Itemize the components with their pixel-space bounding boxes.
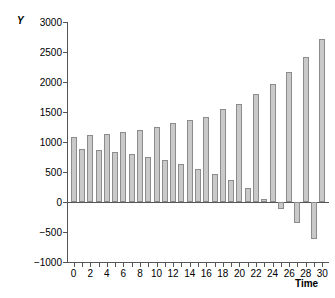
x-axis-tick-label: 22 [250, 268, 261, 279]
bar [228, 180, 234, 202]
y-axis-tick [63, 202, 67, 203]
x-axis-tick-label: 2 [87, 268, 93, 279]
x-axis-tick [264, 263, 265, 267]
x-axis-tick-label: 26 [284, 268, 295, 279]
y-axis-tick [63, 232, 67, 233]
zero-line [67, 202, 329, 203]
y-axis-line [67, 22, 68, 262]
bar [79, 149, 85, 202]
bar [120, 132, 126, 203]
x-axis-tick-label: 18 [217, 268, 228, 279]
x-axis-tick-label: 0 [71, 268, 77, 279]
x-axis-tick [123, 263, 124, 267]
bar [319, 39, 325, 202]
x-axis-tick [314, 263, 315, 267]
y-axis-tick [63, 52, 67, 53]
x-axis-tick [173, 263, 174, 267]
y-axis-tick-label: 1500 [40, 107, 62, 118]
bar [203, 117, 209, 203]
y-axis-tick [63, 22, 67, 23]
y-axis-tick-label: 0 [56, 197, 62, 208]
x-axis-tick [132, 263, 133, 267]
x-axis-tick [165, 263, 166, 267]
y-axis-tick [63, 172, 67, 173]
x-axis-tick [289, 263, 290, 267]
y-axis-tick-label: −1000 [34, 257, 62, 268]
bar [145, 157, 151, 202]
y-axis-tick-label: 500 [45, 167, 62, 178]
bar [87, 135, 93, 202]
bar [311, 202, 317, 239]
y-axis-tick-label: 2000 [40, 77, 62, 88]
y-axis-tick [63, 142, 67, 143]
x-axis-tick [206, 263, 207, 267]
bar [245, 188, 251, 202]
x-axis-tick [297, 263, 298, 267]
bar [195, 169, 201, 202]
x-axis-tick [115, 263, 116, 267]
bar [71, 137, 77, 202]
bar [137, 130, 143, 202]
x-axis-tick [215, 263, 216, 267]
x-axis-tick-label: 20 [234, 268, 245, 279]
x-axis-tick [281, 263, 282, 267]
x-axis-title: Time [295, 278, 318, 289]
x-axis-tick [140, 263, 141, 267]
x-axis-tick [82, 263, 83, 267]
bar [220, 109, 226, 202]
x-axis-tick [198, 263, 199, 267]
bar [187, 120, 193, 202]
x-axis-tick-label: 4 [104, 268, 110, 279]
y-axis-tick [63, 82, 67, 83]
x-axis-tick-label: 6 [121, 268, 127, 279]
x-axis-tick [190, 263, 191, 267]
y-axis-tick-labels: 300025002000150010005000−500−1000 [0, 22, 62, 262]
x-axis-tick [148, 263, 149, 267]
x-axis-tick [239, 263, 240, 267]
bar [303, 57, 309, 202]
y-axis-tick-label: 1000 [40, 137, 62, 148]
x-axis-tick-label: 30 [317, 268, 328, 279]
y-axis-tick-label: −500 [39, 227, 62, 238]
y-axis-tick-label: 2500 [40, 47, 62, 58]
y-axis-tick-label: 3000 [40, 17, 62, 28]
plot-area: 024681012141618202224262830 [67, 22, 329, 262]
x-axis-tick-label: 28 [300, 268, 311, 279]
x-axis-tick [74, 263, 75, 267]
x-axis-tick-label: 12 [168, 268, 179, 279]
x-axis-tick [107, 263, 108, 267]
bar [112, 152, 118, 202]
bar [236, 104, 242, 202]
x-axis-tick-label: 8 [137, 268, 143, 279]
bar [154, 127, 160, 202]
x-axis-tick-label: 24 [267, 268, 278, 279]
bar [212, 174, 218, 203]
x-axis-tick-label: 10 [151, 268, 162, 279]
bar [261, 199, 267, 202]
bar [129, 154, 135, 202]
x-axis-tick [223, 263, 224, 267]
x-axis-tick [99, 263, 100, 267]
bar [162, 160, 168, 202]
x-axis-tick [322, 263, 323, 267]
x-axis-tick [256, 263, 257, 267]
x-axis-tick [157, 263, 158, 267]
bar-chart: Y Time 300025002000150010005000−500−1000… [0, 0, 335, 298]
x-axis-tick [306, 263, 307, 267]
x-axis-tick [248, 263, 249, 267]
bar [170, 123, 176, 202]
bar [286, 72, 292, 203]
y-axis-tick [63, 262, 67, 263]
bar [294, 202, 300, 223]
x-axis-tick [231, 263, 232, 267]
bar [278, 202, 284, 209]
bar [178, 164, 184, 202]
bar [270, 84, 276, 203]
x-axis-tick-label: 16 [201, 268, 212, 279]
bar [96, 150, 102, 202]
x-axis-tick [181, 263, 182, 267]
x-axis-tick [273, 263, 274, 267]
bar [253, 94, 259, 202]
x-axis-tick [90, 263, 91, 267]
x-axis-tick-label: 14 [184, 268, 195, 279]
